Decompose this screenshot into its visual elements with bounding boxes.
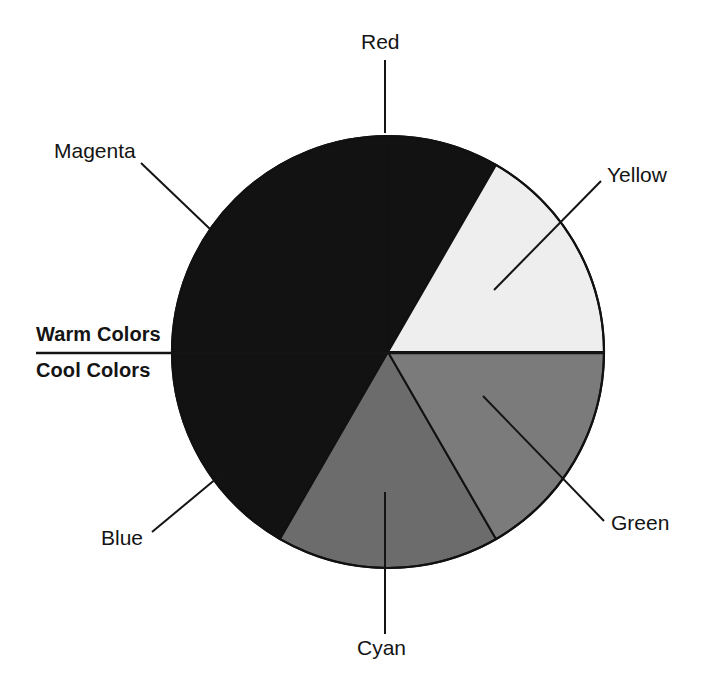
slice-label-cyan: Cyan: [357, 637, 406, 658]
color-wheel-svg: [0, 0, 707, 699]
slice-label-magenta: Magenta: [54, 140, 136, 161]
leader-line-blue: [152, 473, 223, 532]
slice-label-blue: Blue: [101, 527, 143, 548]
slice-label-green: Green: [611, 512, 669, 533]
slice-label-yellow: Yellow: [607, 164, 667, 185]
leader-line-magenta: [141, 163, 210, 229]
cool-colors-label: Cool Colors: [36, 360, 150, 380]
color-wheel-figure: Red Magenta Yellow Green Blue Cyan Warm …: [0, 0, 707, 699]
slice-magenta[interactable]: [172, 136, 388, 352]
warm-colors-label: Warm Colors: [36, 324, 161, 344]
slice-label-red: Red: [361, 31, 400, 52]
